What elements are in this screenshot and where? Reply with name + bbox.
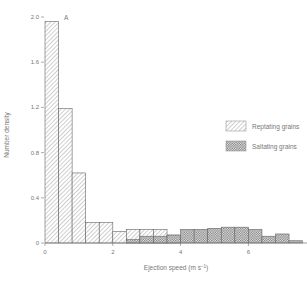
legend-label-reptating: Reptating grains [252,123,300,131]
saltating-bar [235,227,249,243]
legend-swatch-saltating [226,141,246,151]
saltating-bar [126,240,140,243]
x-tick-label: 0 [43,249,47,255]
reptating-bars [45,22,181,243]
legend-label-saltating: Saltating grains [252,143,298,151]
saltating-bar [262,236,276,243]
y-tick-label: 0 [36,240,40,246]
legend: Reptating grains Saltating grains [226,121,300,151]
x-tick-label: 2 [111,249,115,255]
x-axis-label: Ejection speed (m s−1) [144,264,208,273]
saltating-bar [194,229,208,243]
y-tick-label: 1.6 [31,59,40,65]
x-tick-label: 6 [247,249,251,255]
reptating-bar [72,173,86,243]
saltating-bar [221,227,235,243]
y-tick-label: 0.4 [31,195,40,201]
saltating-bar [276,234,290,243]
y-tick-label: 0.8 [31,150,40,156]
y-tick-label: 2.0 [31,14,40,20]
panel-label: A [64,14,69,21]
y-axis-label: Number density [3,111,11,157]
reptating-bar [86,223,100,243]
y-tick-label: 1.2 [31,104,40,110]
x-tick-label: 4 [179,249,183,255]
reptating-bar [59,109,73,243]
saltating-bar [248,229,262,243]
reptating-bar [99,223,113,243]
saltating-bar [140,236,154,243]
histogram-chart: 00.40.81.21.62.002468 A Number density E… [0,0,307,284]
saltating-bar [208,228,222,243]
saltating-bar [153,236,167,243]
reptating-bar [45,22,59,243]
legend-swatch-reptating [226,121,246,131]
reptating-bar [113,232,127,243]
saltating-bar [167,235,181,243]
saltating-bar [181,229,195,243]
